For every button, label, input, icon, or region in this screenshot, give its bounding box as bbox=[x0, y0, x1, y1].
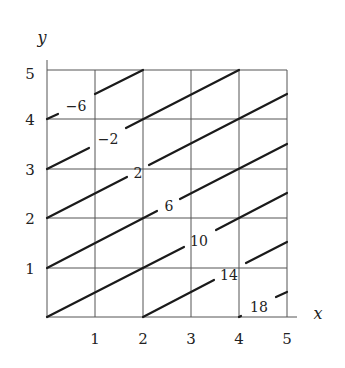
contour-labels: −6 −2 2 6 10 14 18 bbox=[66, 98, 268, 315]
x-tick-label: 1 bbox=[90, 330, 100, 348]
contour-line-6 bbox=[47, 211, 157, 268]
x-tick-labels: 1 2 3 4 5 bbox=[90, 330, 292, 348]
contour-label: 10 bbox=[190, 233, 208, 249]
y-tick-label: 5 bbox=[25, 65, 35, 83]
contour-line-6 bbox=[180, 144, 287, 199]
contour-label: −6 bbox=[66, 98, 87, 114]
contour-line-14 bbox=[143, 280, 214, 317]
contour-line-18 bbox=[276, 292, 287, 297]
y-tick-label: 4 bbox=[25, 111, 35, 129]
contour-line-neg6 bbox=[47, 114, 58, 119]
x-tick-label: 2 bbox=[138, 330, 148, 348]
contour-label: 6 bbox=[165, 198, 174, 214]
y-tick-label: 3 bbox=[25, 161, 35, 179]
contour-line-2 bbox=[47, 177, 127, 218]
y-axis-label: y bbox=[36, 28, 47, 47]
contour-label: 14 bbox=[220, 267, 238, 283]
contour-line-10 bbox=[216, 193, 287, 230]
contour-line-neg2 bbox=[47, 148, 89, 169]
x-tick-label: 4 bbox=[234, 330, 244, 348]
contour-plot: −6 −2 2 6 10 14 18 1 2 3 4 5 1 2 3 4 5 y… bbox=[0, 0, 345, 368]
x-tick-label: 3 bbox=[186, 330, 196, 348]
contour-line-14 bbox=[246, 242, 287, 263]
contour-label: −2 bbox=[98, 131, 119, 147]
x-axis-label: x bbox=[313, 304, 322, 323]
contour-line-18 bbox=[239, 316, 241, 317]
y-tick-label: 1 bbox=[25, 260, 35, 278]
contour-line-neg6 bbox=[95, 70, 143, 94]
contour-label: 2 bbox=[134, 165, 143, 181]
y-tick-label: 2 bbox=[25, 210, 35, 228]
x-tick-label: 5 bbox=[282, 330, 292, 348]
contour-label: 18 bbox=[250, 299, 268, 315]
y-tick-labels: 1 2 3 4 5 bbox=[25, 65, 35, 278]
